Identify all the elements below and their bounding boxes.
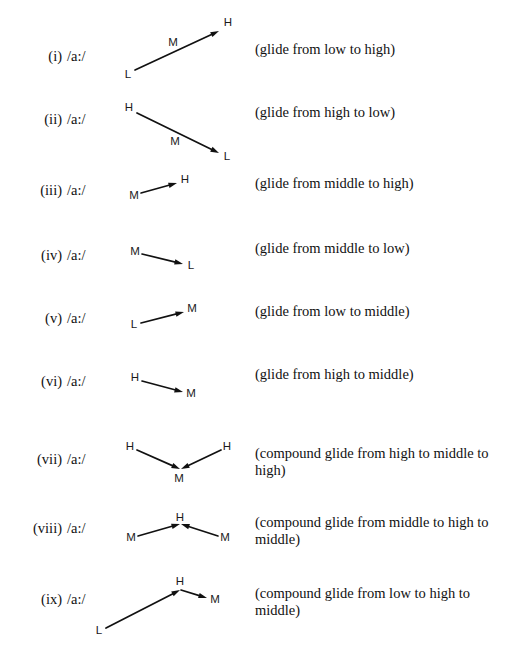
row-vowel: /a:/ [62,374,86,389]
row-vowel: /a:/ [62,183,86,198]
row-vowel: /a:/ [62,592,86,607]
row-number: (iii) [22,183,62,198]
row-description-7: (compound glide from high to middle to h… [255,445,505,479]
row-vowel: /a:/ [62,49,86,64]
tone-label-m: M [210,594,220,606]
tone-label-m: M [168,37,178,49]
row-number: (iv) [22,248,62,263]
row-vowel: /a:/ [62,521,86,536]
glide-arrows-layer [0,0,521,665]
tone-label-h: H [126,441,134,453]
row-number: (v) [22,311,62,326]
row-description-9: (compound glide from low to high to midd… [255,585,505,619]
glide-line [137,450,176,467]
glide-line [106,592,176,628]
row-label-9: (ix)/a:/ [22,592,86,607]
tone-label-l: L [96,625,102,637]
arrowhead [210,147,219,153]
tone-label-h: H [223,441,231,453]
glide-line [185,525,218,536]
arrowhead [210,31,219,37]
tone-label-h: H [125,102,133,114]
row-number: (vii) [22,452,62,467]
tone-label-l: L [224,151,230,163]
row-vowel: /a:/ [62,452,86,467]
tone-label-m: M [187,303,197,315]
arrowhead [181,463,190,469]
arrowhead [181,524,190,529]
row-vowel: /a:/ [62,112,86,127]
row-label-3: (iii)/a:/ [22,183,86,198]
glide-line [142,381,178,391]
glide-line [138,525,176,536]
glide-line [142,254,178,263]
tone-label-m: M [186,388,196,400]
row-number: (i) [22,49,62,64]
row-description-2: (glide from high to low) [255,104,505,121]
row-description-5: (glide from low to middle) [255,303,505,320]
arrowhead [175,311,184,316]
tone-label-m: M [130,246,140,258]
tone-label-m: M [170,136,180,148]
tone-label-m: M [129,190,139,202]
arrowhead [174,259,183,264]
arrowhead [198,593,207,598]
row-description-4: (glide from middle to low) [255,240,505,257]
row-label-6: (vi)/a:/ [22,374,86,389]
row-number: (ii) [22,112,62,127]
tone-label-h: H [131,372,139,384]
tone-label-l: L [125,69,131,81]
row-label-7: (vii)/a:/ [22,452,86,467]
arrowhead [171,590,180,596]
row-label-1: (i)/a:/ [22,49,86,64]
arrowhead [171,524,180,529]
tone-label-h: H [181,174,189,186]
row-number: (viii) [22,521,62,536]
tone-label-l: L [188,260,194,272]
row-description-6: (glide from high to middle) [255,366,505,383]
row-vowel: /a:/ [62,311,86,326]
glide-line [141,313,179,323]
arrowhead [168,183,177,188]
tone-label-h: H [224,17,232,29]
arrowhead [171,463,180,469]
arrowhead [174,387,183,392]
tone-label-m: M [174,473,184,485]
row-description-8: (compound glide from middle to high to m… [255,514,505,548]
tone-label-l: L [131,319,137,331]
tone-label-h: H [176,576,184,588]
tone-label-h: H [176,512,184,524]
row-label-5: (v)/a:/ [22,311,86,326]
tone-glide-figure: (i)/a:/(glide from low to high)LMH(ii)/a… [0,0,521,665]
row-label-2: (ii)/a:/ [22,112,86,127]
row-description-3: (glide from middle to high) [255,175,505,192]
row-number: (vi) [22,374,62,389]
row-number: (ix) [22,592,62,607]
row-vowel: /a:/ [62,248,86,263]
row-description-1: (glide from low to high) [255,41,505,58]
glide-line [185,450,221,467]
tone-label-m: M [126,532,136,544]
row-label-8: (viii)/a:/ [22,521,86,536]
glide-line [141,184,172,193]
row-label-4: (iv)/a:/ [22,248,86,263]
tone-label-m: M [220,532,230,544]
